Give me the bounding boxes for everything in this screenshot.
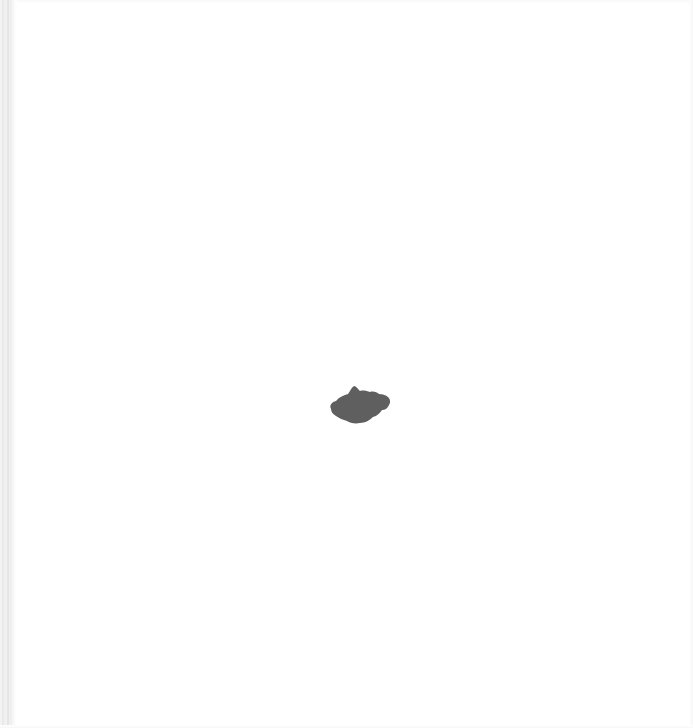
right-edge-shadow: [689, 0, 693, 728]
blank-canvas: [0, 0, 693, 728]
gray-blob-shape: [327, 383, 393, 427]
left-edge-strip: [0, 0, 17, 728]
cloud-blob-icon: [327, 383, 393, 427]
top-edge-shadow: [0, 0, 693, 3]
